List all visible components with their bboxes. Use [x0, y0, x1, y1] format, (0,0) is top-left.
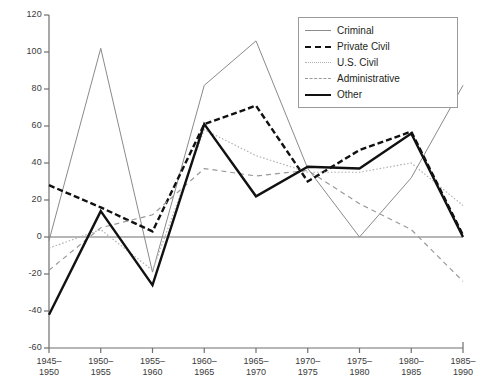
x-tick-label-line: 1990 [437, 367, 477, 378]
x-tick-label-line: 1985– [437, 356, 477, 367]
legend-item-label: U.S. Civil [337, 57, 378, 68]
y-tick-label: -40 [4, 305, 42, 315]
legend-item-label: Private Civil [337, 41, 390, 52]
x-tick-label-line: 1960 [127, 367, 179, 378]
x-tick-label-line: 1980 [334, 367, 386, 378]
y-tick-label: -60 [4, 342, 42, 352]
x-tick-label-line: 1965– [230, 356, 282, 367]
x-tick-label-line: 1960– [178, 356, 230, 367]
legend-line-sample-icon [305, 24, 331, 36]
y-tick-label: 0 [4, 231, 42, 241]
x-tick-label-line: 1945– [23, 356, 75, 367]
x-tick-label: 1965–1970 [230, 356, 282, 378]
legend-item-label: Administrative [337, 73, 400, 84]
legend-item-other[interactable]: Other [299, 86, 457, 102]
y-tick-label: 20 [4, 194, 42, 204]
x-tick-label: 1970–1975 [282, 356, 334, 378]
series-line-u-s-civil [49, 130, 463, 271]
x-tick-label: 1955–1960 [127, 356, 179, 378]
line-chart: 120100806040200-20-40-60 1945–19501950–1… [0, 0, 477, 391]
x-tick-label: 1960–1965 [178, 356, 230, 378]
legend-line-sample-icon [305, 40, 331, 52]
x-tick-label-line: 1980– [385, 356, 437, 367]
legend-line-sample-icon [305, 56, 331, 68]
legend-item-u-s-civil[interactable]: U.S. Civil [299, 54, 457, 70]
x-tick-label-line: 1975 [282, 367, 334, 378]
y-tick-label: 60 [4, 120, 42, 130]
chart-legend: CriminalPrivate CivilU.S. CivilAdministr… [298, 17, 458, 108]
y-tick-label: 40 [4, 157, 42, 167]
x-tick-label-line: 1955– [127, 356, 179, 367]
legend-item-label: Criminal [337, 25, 374, 36]
y-tick-label: -20 [4, 268, 42, 278]
y-tick-label: 80 [4, 83, 42, 93]
x-tick-label-line: 1950– [75, 356, 127, 367]
x-tick-label: 1985–1990 [437, 356, 477, 378]
x-tick-label-line: 1985 [385, 367, 437, 378]
x-tick-label: 1975–1980 [334, 356, 386, 378]
legend-item-label: Other [337, 89, 362, 100]
x-tick-label-line: 1970– [282, 356, 334, 367]
y-tick-label: 100 [4, 46, 42, 56]
x-tick-label-line: 1975– [334, 356, 386, 367]
x-tick-label-line: 1965 [178, 367, 230, 378]
y-tick-label: 120 [4, 9, 42, 19]
x-tick-label: 1980–1985 [385, 356, 437, 378]
legend-item-private-civil[interactable]: Private Civil [299, 38, 457, 54]
x-tick-label-line: 1970 [230, 367, 282, 378]
legend-item-criminal[interactable]: Criminal [299, 22, 457, 38]
x-tick-label: 1950–1955 [75, 356, 127, 378]
x-tick-label-line: 1950 [23, 367, 75, 378]
x-tick-label-line: 1955 [75, 367, 127, 378]
legend-line-sample-icon [305, 72, 331, 84]
series-line-private-civil [49, 106, 463, 236]
legend-line-sample-icon [305, 88, 331, 100]
x-tick-label: 1945–1950 [23, 356, 75, 378]
series-line-other [49, 124, 463, 315]
legend-item-administrative[interactable]: Administrative [299, 70, 457, 86]
